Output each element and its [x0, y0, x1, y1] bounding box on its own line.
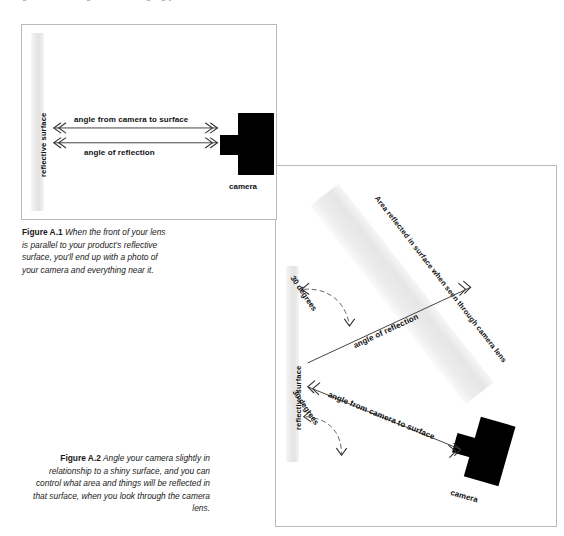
- camera-body-shape: [238, 113, 274, 175]
- camera-label: camera: [229, 182, 257, 191]
- reflective-surface-label: reflective surface: [39, 113, 48, 177]
- angle-from-camera-to-surface-label: angle from camera to surface: [327, 390, 436, 441]
- figure-a1-caption: Figure A.1 When the front of your lens i…: [22, 226, 168, 276]
- angle-from-camera-to-surface-label: angle from camera to surface: [74, 115, 188, 124]
- reflective-surface-band: [286, 266, 299, 462]
- figure-a2-caption-number: Figure A.2: [60, 453, 101, 463]
- figure-a2-arrows: [276, 166, 556, 526]
- running-head-text: Figure A.1 and Figure A.2 — angling your…: [14, 0, 309, 1]
- angle-of-reflection-label: angle of reflection: [84, 148, 155, 157]
- figure-a1-caption-number: Figure A.1: [22, 227, 63, 237]
- camera-icon: [220, 113, 274, 175]
- figure-a2-panel: Area reflected in surface when seen thro…: [275, 165, 557, 527]
- camera-lens-shape: [220, 135, 242, 155]
- running-head-bleed: Figure A.1 and Figure A.2 — angling your…: [0, 0, 564, 8]
- camera-icon: [447, 412, 516, 486]
- reflected-area-band: [310, 184, 494, 405]
- camera-label: camera: [450, 488, 479, 504]
- figure-a2-caption: Figure A.2 Angle your camera slightly in…: [28, 452, 210, 515]
- figure-a1-panel: reflective surface camera angle from cam…: [21, 24, 277, 220]
